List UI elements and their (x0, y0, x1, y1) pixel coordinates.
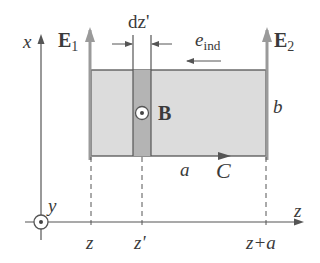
b-label: b (273, 97, 283, 116)
E1-arrowhead (85, 27, 95, 42)
E2-label: E2 (274, 30, 294, 54)
B-label: B (158, 103, 171, 123)
diagram: x E1 dz' eind E2 B b a C y z z z' z+a (0, 0, 320, 263)
x-axis-arrowhead (38, 34, 45, 44)
e-ind-label: eind (195, 30, 220, 52)
E2-subscript: 2 (287, 39, 294, 54)
E2-text: E (274, 29, 287, 51)
loop-area (91, 70, 266, 156)
a-label: a (180, 160, 190, 179)
E1-label: E1 (58, 30, 78, 54)
diagram-canvas (0, 0, 320, 263)
C-label: C (216, 160, 231, 182)
B-dot (140, 111, 144, 115)
y-axis-label: y (48, 196, 56, 215)
e-ind-subscript: ind (203, 38, 220, 53)
E1-text: E (58, 29, 71, 51)
z-axis-label: z (294, 201, 301, 220)
E2-arrowhead (262, 27, 272, 42)
dz-text: dz' (128, 11, 149, 32)
tick-z-label: z (86, 233, 93, 252)
x-axis-label: x (23, 32, 31, 51)
dz-label: dz' (128, 12, 149, 31)
y-axis-dot (39, 220, 43, 224)
tick-zprime-label: z' (134, 233, 145, 252)
tick-z-plus-a-label: z+a (246, 233, 276, 252)
E1-subscript: 1 (71, 39, 78, 54)
